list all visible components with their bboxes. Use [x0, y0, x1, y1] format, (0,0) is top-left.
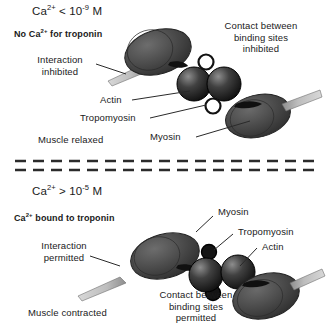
muscle-state-relaxed: Muscle relaxed — [38, 134, 103, 146]
muscle-state-contracted: Muscle contracted — [28, 307, 107, 319]
myosin-tail-left-bottom — [78, 277, 126, 301]
leader-tropomyosin-bottom — [214, 234, 233, 250]
contact-contracted-line1: Contact between — [160, 289, 233, 300]
actin-spheres-top — [177, 67, 241, 101]
interaction-status-contracted: Interactionpermitted — [24, 240, 104, 263]
calcium-concentration-relaxed: Ca2+ < 10-9 M — [32, 6, 102, 18]
troponin-status-relaxed: No Ca2+ for troponin — [14, 29, 102, 41]
calcium-concentration-contracted: Ca2+ > 10-5 M — [32, 186, 102, 198]
leader-tropomyosin-top — [150, 105, 206, 118]
dashed-separator-lines — [15, 161, 320, 170]
callout-tropomyosin-top: Tropomyosin — [80, 112, 136, 124]
contact-relaxed-line2: binding sites — [234, 32, 288, 43]
callout-tropomyosin-bottom: Tropomyosin — [238, 226, 294, 238]
troponin-status-contracted: Ca2+ bound to troponin — [14, 213, 114, 225]
myosin-tail-right-bottom — [290, 269, 325, 290]
contact-status-relaxed: Contact betweenbinding sitesinhibited — [206, 20, 316, 55]
interaction-status-relaxed-line1: Interaction — [37, 54, 82, 65]
interaction-status-relaxed: Interactioninhibited — [22, 54, 98, 77]
myosin-tail-right-top — [282, 90, 322, 111]
contact-relaxed-line1: Contact between — [225, 20, 298, 31]
leader-interaction-top — [96, 64, 126, 74]
muscle-contraction-diagram: Ca2+ < 10-9 M No Ca2+ for troponin Inter… — [0, 0, 327, 336]
interaction-status-relaxed-line2: inhibited — [42, 66, 78, 77]
interaction-status-contracted-line1: Interaction — [41, 240, 86, 251]
callout-actin-bottom: Actin — [262, 241, 284, 253]
callout-myosin-top: Myosin — [150, 131, 181, 143]
callout-myosin-bottom: Myosin — [218, 206, 249, 218]
callout-actin-top: Actin — [100, 94, 122, 106]
contact-status-contracted: Contact betweenbinding sitespermitted — [140, 289, 252, 324]
contact-relaxed-line3: inhibited — [243, 43, 279, 54]
contact-contracted-line2: binding sites — [169, 301, 223, 312]
leader-myosin-bottom — [196, 216, 213, 232]
interaction-status-contracted-line2: permitted — [44, 252, 85, 263]
contact-contracted-line3: permitted — [176, 312, 217, 323]
